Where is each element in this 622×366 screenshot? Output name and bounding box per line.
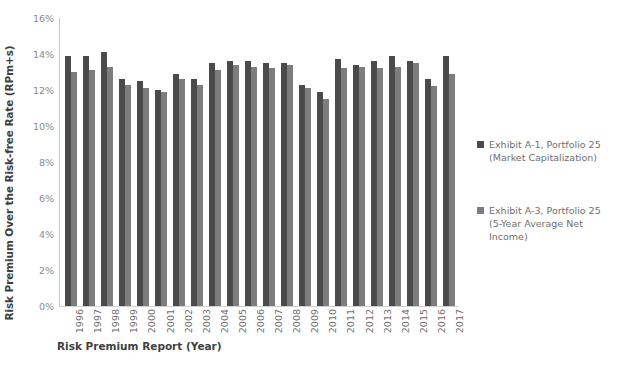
x-axis-tick-cell: 2015 (405, 307, 423, 335)
bar-group (350, 18, 368, 306)
x-axis-tick-cell: 2000 (133, 307, 151, 335)
bar-group (116, 18, 134, 306)
bar-group (98, 18, 116, 306)
bar-group (188, 18, 206, 306)
bar-series-2 (269, 68, 275, 306)
bar-series-2 (161, 92, 167, 306)
x-axis-tick: 2017 (454, 309, 465, 333)
bar-series-2 (89, 70, 95, 306)
y-axis-title: Risk Premium Over the Risk-free Rate (RP… (0, 0, 18, 366)
x-axis-tick-cell: 1996 (61, 307, 79, 335)
x-axis-tick-cell: 2010 (314, 307, 332, 335)
x-axis-tick-cell: 1999 (115, 307, 133, 335)
bar-series-2 (197, 85, 203, 306)
bar-group (422, 18, 440, 306)
y-axis-tick: 2% (24, 265, 54, 276)
x-axis-tick-cell: 2013 (369, 307, 387, 335)
bar-series-2 (341, 68, 347, 306)
bar-group (386, 18, 404, 306)
bar-group (80, 18, 98, 306)
bar-series-2 (413, 63, 419, 306)
x-axis-tick-cell: 2007 (260, 307, 278, 335)
bar-group (206, 18, 224, 306)
x-axis-tick-cell: 2002 (170, 307, 188, 335)
x-axis-tick-cell: 2005 (224, 307, 242, 335)
bar-series-2 (251, 67, 257, 306)
bar-series-2 (431, 86, 437, 306)
bar-group (440, 18, 458, 306)
x-axis-tick-cell: 2011 (332, 307, 350, 335)
bar-group (170, 18, 188, 306)
bar-series-2 (107, 67, 113, 306)
bar-series-2 (179, 79, 185, 306)
x-axis-tick-cell: 1998 (97, 307, 115, 335)
bar-group (296, 18, 314, 306)
x-axis-tick-cell: 2009 (296, 307, 314, 335)
legend-entry[interactable]: Exhibit A-3, Portfolio 25 (5-Year Averag… (477, 204, 617, 243)
bar-series-2 (449, 74, 455, 306)
bar-series-2 (71, 72, 77, 306)
legend-swatch-icon (477, 207, 484, 214)
bar-series-2 (305, 88, 311, 306)
bar-group (332, 18, 350, 306)
bar-group (404, 18, 422, 306)
bar-series-2 (287, 65, 293, 306)
bar-group (260, 18, 278, 306)
bar-series-2 (377, 68, 383, 306)
bar-series-2 (359, 67, 365, 306)
x-axis-tick-cell: 2003 (188, 307, 206, 335)
y-axis-tick: 16% (24, 13, 54, 24)
bar-series-2 (323, 99, 329, 306)
bar-group (224, 18, 242, 306)
y-axis-tick: 14% (24, 49, 54, 60)
x-axis-tick-cell: 2016 (423, 307, 441, 335)
y-axis-tick: 12% (24, 85, 54, 96)
x-axis-tick-cell: 2006 (242, 307, 260, 335)
legend-swatch-icon (477, 141, 484, 148)
bars-layer (61, 18, 459, 306)
legend-entry[interactable]: Exhibit A-1, Portfolio 25 (Market Capita… (477, 138, 617, 164)
bar-group (62, 18, 80, 306)
x-axis-tick-cell: 2008 (278, 307, 296, 335)
bar-series-2 (125, 85, 131, 306)
bar-series-2 (233, 65, 239, 306)
bar-chart: Risk Premium Over the Risk-free Rate (RP… (0, 0, 622, 366)
x-axis-tick-labels: 1996199719981999200020012002200320042005… (60, 307, 460, 335)
bar-series-2 (143, 88, 149, 306)
x-axis-tick-cell: 2014 (387, 307, 405, 335)
y-axis-tick: 6% (24, 193, 54, 204)
bar-series-2 (215, 70, 221, 306)
bar-group (278, 18, 296, 306)
bar-group (368, 18, 386, 306)
y-axis-tick: 8% (24, 157, 54, 168)
bar-group (242, 18, 260, 306)
bar-group (134, 18, 152, 306)
plot-area (59, 18, 459, 306)
y-axis-tick: 4% (24, 229, 54, 240)
chart-legend: Exhibit A-1, Portfolio 25 (Market Capita… (477, 138, 617, 283)
bar-group (152, 18, 170, 306)
x-axis-title: Risk Premium Report (Year) (57, 340, 222, 352)
x-axis-tick-cell: 2012 (351, 307, 369, 335)
legend-label: Exhibit A-1, Portfolio 25 (Market Capita… (489, 138, 601, 164)
y-axis-tick-labels: 16%14%12%10%8%6%4%2%0% (24, 12, 54, 312)
bar-group (314, 18, 332, 306)
x-axis-tick-cell: 2004 (206, 307, 224, 335)
x-axis-tick-cell: 1997 (79, 307, 97, 335)
y-axis-tick: 10% (24, 121, 54, 132)
legend-label: Exhibit A-3, Portfolio 25 (5-Year Averag… (489, 204, 601, 243)
x-axis-tick-cell: 2001 (151, 307, 169, 335)
x-axis-tick-cell: 2017 (441, 307, 459, 335)
bar-series-2 (395, 67, 401, 306)
y-axis-tick: 0% (24, 301, 54, 312)
